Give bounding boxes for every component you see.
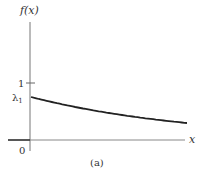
y-tick-lambda-label: λ1 [12, 92, 23, 105]
y-axis-label: f(x) [19, 4, 39, 17]
y-tick-one-label: 1 [18, 78, 24, 89]
x-axis-label: x [189, 133, 196, 146]
chart-caption: (a) [90, 157, 104, 168]
density-curve [31, 97, 187, 123]
origin-label: 0 [19, 145, 25, 156]
chart: f(x) x 1 λ1 0 (a) [0, 0, 203, 172]
